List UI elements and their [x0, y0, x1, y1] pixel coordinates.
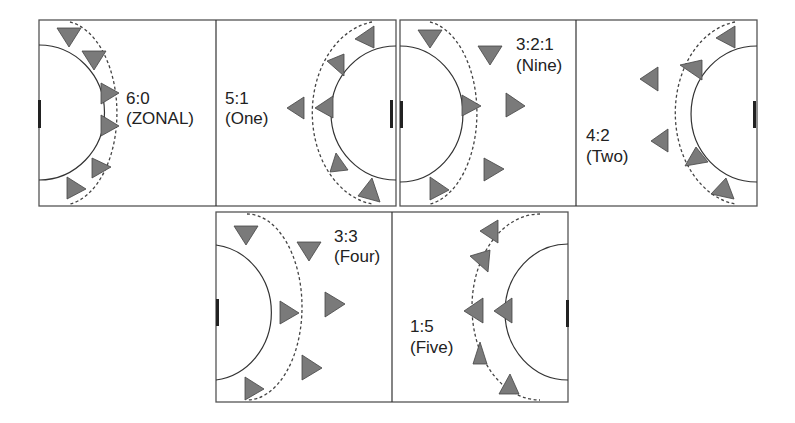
- goal-5-1: [390, 100, 393, 128]
- svg-text:1:5: 1:5: [410, 317, 434, 336]
- goal-1-5: [566, 300, 569, 327]
- svg-text:6:0: 6:0: [126, 89, 150, 108]
- svg-text:(Four): (Four): [334, 247, 380, 266]
- goal-3-3: [216, 299, 219, 326]
- svg-text:(Five): (Five): [410, 338, 453, 357]
- formations-diagram: 6:0 (ZONAL) 5:1 (One) 3:2:1 (Nine) 4:2 (…: [0, 0, 795, 423]
- svg-text:(ZONAL): (ZONAL): [126, 109, 194, 128]
- goal-3-2-1: [400, 101, 403, 128]
- court-top-left: [38, 20, 396, 206]
- svg-text:(Two): (Two): [586, 147, 629, 166]
- svg-text:5:1: 5:1: [225, 89, 249, 108]
- svg-text:3:2:1: 3:2:1: [516, 35, 554, 54]
- svg-text:(Nine): (Nine): [516, 56, 562, 75]
- goal-6-0: [38, 100, 41, 128]
- court-bottom: [216, 212, 569, 402]
- court-top-right: [400, 20, 757, 206]
- svg-text:4:2: 4:2: [586, 126, 610, 145]
- goal-4-2: [753, 101, 756, 128]
- svg-text:(One): (One): [225, 109, 268, 128]
- svg-text:3:3: 3:3: [334, 227, 358, 246]
